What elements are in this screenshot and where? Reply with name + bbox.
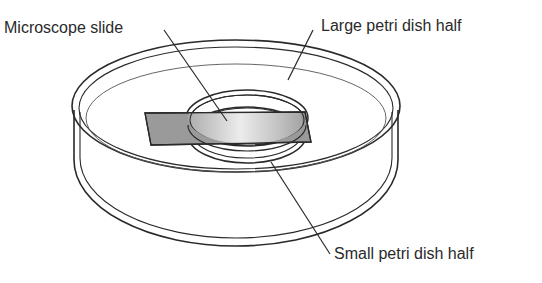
microscope-slide: [145, 95, 311, 151]
leader-microscope-slide: [164, 30, 227, 121]
petri-dish-diagram: [0, 0, 542, 283]
leader-large-petri-dish: [288, 30, 313, 80]
label-microscope-slide: Microscope slide: [4, 20, 123, 36]
label-large-petri-dish-half: Large petri dish half: [321, 18, 462, 34]
label-small-petri-dish-half: Small petri dish half: [334, 246, 474, 262]
leader-small-petri-dish: [271, 162, 330, 254]
